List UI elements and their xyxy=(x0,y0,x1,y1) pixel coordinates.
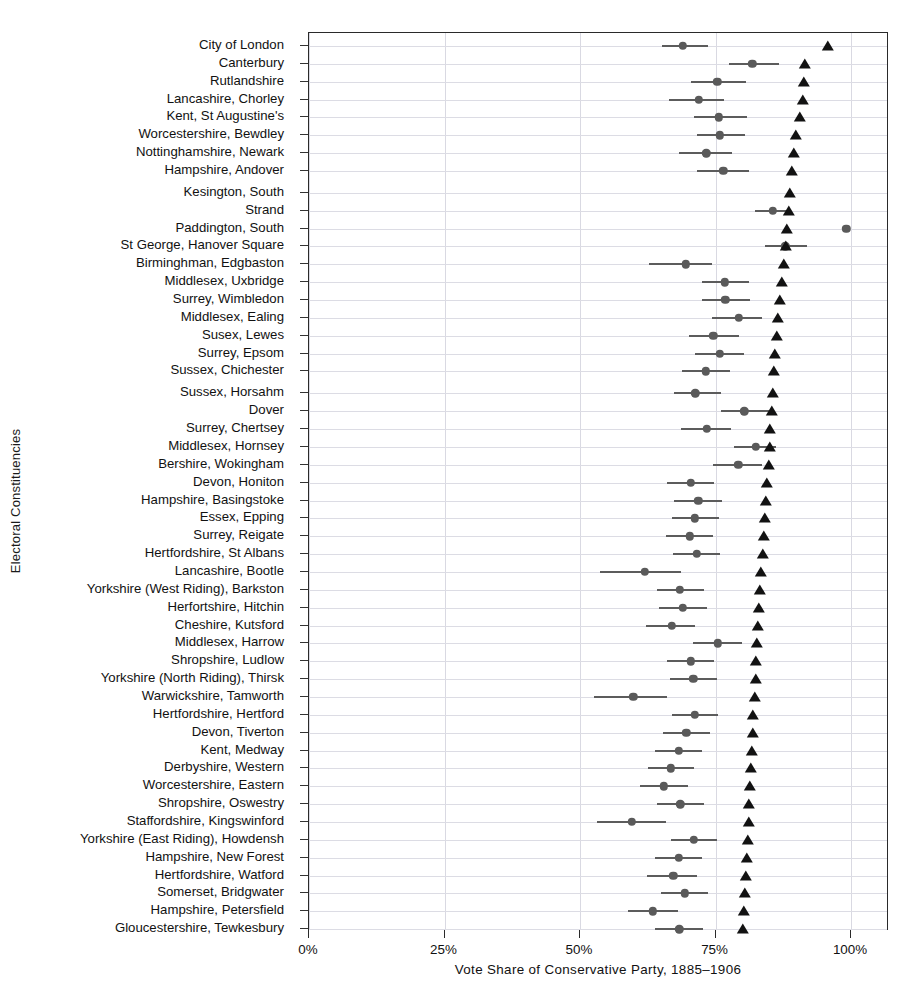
y-axis-tick xyxy=(300,152,308,153)
y-axis-category-label: Kent, St Augustine's xyxy=(166,109,284,123)
reference-point-marker xyxy=(745,763,757,773)
y-axis-tick xyxy=(300,228,308,229)
y-axis-category-label: Hampshire, New Forest xyxy=(145,850,284,864)
estimate-point xyxy=(713,78,721,86)
estimate-point xyxy=(628,818,636,826)
reference-point-marker xyxy=(750,656,762,666)
y-axis-tick xyxy=(300,482,308,483)
reference-point-marker xyxy=(739,888,751,898)
reference-point-marker xyxy=(793,112,805,122)
estimate-point xyxy=(648,907,656,915)
y-axis-category-labels: City of LondonCanterburyRutlandshireLanc… xyxy=(0,0,296,1002)
estimate-point xyxy=(680,889,688,897)
row-gridline xyxy=(309,661,887,662)
estimate-point xyxy=(679,603,687,611)
y-axis-tick xyxy=(300,517,308,518)
y-axis-category-label: Nottinghamshire, Newark xyxy=(136,145,284,159)
row-gridline xyxy=(309,282,887,283)
y-axis-category-label: Surrey, Reigate xyxy=(193,528,284,542)
reference-point-marker xyxy=(775,277,787,287)
y-axis-tick xyxy=(300,821,308,822)
x-axis-tick-label: 0% xyxy=(298,942,317,957)
y-axis-tick xyxy=(300,170,308,171)
y-axis-tick xyxy=(300,99,308,100)
x-gridline xyxy=(851,33,852,929)
row-gridline xyxy=(309,483,887,484)
estimate-point xyxy=(692,550,700,558)
y-axis-tick xyxy=(300,392,308,393)
y-axis-tick xyxy=(300,134,308,135)
estimate-point xyxy=(842,224,850,232)
x-axis-tick xyxy=(715,930,716,938)
y-axis-category-label: Lancashire, Bootle xyxy=(175,564,284,578)
reference-point-marker xyxy=(741,834,753,844)
y-axis-category-label: Devon, Tiverton xyxy=(192,725,284,739)
y-axis-category-label: Staffordshire, Kingswinford xyxy=(127,814,284,828)
estimate-point xyxy=(734,461,742,469)
reference-point-marker xyxy=(790,130,802,140)
y-axis-tick xyxy=(300,210,308,211)
estimate-point xyxy=(716,131,724,139)
row-gridline xyxy=(309,354,887,355)
reference-point-marker xyxy=(748,691,760,701)
x-axis-tick-label: 100% xyxy=(833,942,867,957)
y-axis-tick xyxy=(300,571,308,572)
row-gridline xyxy=(309,518,887,519)
estimate-point xyxy=(702,149,710,157)
y-axis-category-label: Warwickshire, Tamworth xyxy=(142,689,284,703)
reference-point-marker xyxy=(764,441,776,451)
reference-point-marker xyxy=(768,348,780,358)
x-gridline xyxy=(309,33,310,929)
estimate-point xyxy=(702,367,710,375)
x-gridline xyxy=(716,33,717,929)
row-gridline xyxy=(309,300,887,301)
y-axis-category-label: Hertfordshire, Hertford xyxy=(153,707,284,721)
reference-point-marker xyxy=(742,816,754,826)
y-axis-tick xyxy=(300,892,308,893)
estimate-point xyxy=(669,871,677,879)
y-axis-tick xyxy=(300,535,308,536)
y-axis-tick xyxy=(300,785,308,786)
y-axis-tick xyxy=(300,192,308,193)
estimate-point xyxy=(691,389,699,397)
row-gridline xyxy=(309,893,887,894)
row-gridline xyxy=(309,608,887,609)
estimate-point xyxy=(735,314,743,322)
reference-point-marker xyxy=(743,799,755,809)
estimate-point xyxy=(691,514,699,522)
y-axis-category-label: Kent, Medway xyxy=(200,743,284,757)
y-axis-category-label: Worcestershire, Eastern xyxy=(143,778,284,792)
reference-point-marker xyxy=(798,76,810,86)
row-gridline xyxy=(309,465,887,466)
row-gridline xyxy=(309,229,887,230)
x-axis-tick-label: 25% xyxy=(430,942,457,957)
y-axis-tick xyxy=(300,857,308,858)
y-axis-tick xyxy=(300,63,308,64)
row-gridline xyxy=(309,626,887,627)
estimate-point xyxy=(679,42,687,50)
reference-point-marker xyxy=(783,205,795,215)
y-axis-category-label: Strand xyxy=(245,203,284,217)
y-axis-category-label: Surrey, Wimbledon xyxy=(173,292,284,306)
y-axis-category-label: Yorkshire (East Riding), Howdensh xyxy=(80,832,284,846)
y-axis-tick xyxy=(300,928,308,929)
reference-point-marker xyxy=(780,241,792,251)
reference-point-marker xyxy=(767,388,779,398)
row-gridline xyxy=(309,715,887,716)
estimate-point xyxy=(676,586,684,594)
reference-point-marker xyxy=(758,531,770,541)
y-axis-category-label: Surrey, Chertsey xyxy=(186,421,284,435)
reference-point-marker xyxy=(788,148,800,158)
reference-point-marker xyxy=(747,709,759,719)
estimate-point xyxy=(694,496,702,504)
estimate-point xyxy=(667,621,675,629)
y-axis-tick xyxy=(300,767,308,768)
y-axis-tick xyxy=(300,464,308,465)
y-axis-tick xyxy=(300,299,308,300)
plot-panel xyxy=(308,32,888,930)
reference-point-marker xyxy=(747,727,759,737)
y-axis-tick xyxy=(300,353,308,354)
estimate-point xyxy=(721,296,729,304)
y-axis-tick xyxy=(300,660,308,661)
reference-point-marker xyxy=(781,223,793,233)
